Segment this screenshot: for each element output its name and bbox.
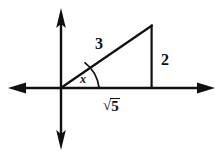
opposite-side-label: 2	[161, 52, 169, 68]
triangle-hypotenuse	[62, 26, 153, 88]
adjacent-side-label: √ 5	[103, 98, 120, 115]
hypotenuse-label: 3	[95, 36, 103, 52]
radical-group: √ 5	[103, 98, 120, 115]
triangle-figure: 3 2 √ 5 x	[0, 0, 222, 158]
angle-label: x	[80, 73, 86, 85]
x-axis-left-arrowhead	[8, 83, 26, 94]
x-axis-right-arrowhead	[197, 83, 215, 94]
radicand-value: 5	[110, 98, 120, 115]
figure-canvas	[0, 0, 222, 158]
